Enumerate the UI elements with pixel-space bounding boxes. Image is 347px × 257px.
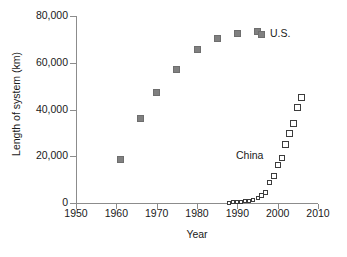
x-tick-label: 1950 bbox=[56, 207, 96, 219]
data-point-us bbox=[214, 35, 221, 42]
series-label-china: China bbox=[236, 149, 263, 161]
x-tick-label: 1970 bbox=[137, 207, 177, 219]
y-tick bbox=[70, 110, 76, 111]
chart-figure: 020,00040,00060,00080,000 19501960197019… bbox=[0, 0, 347, 257]
plot-area: 020,00040,00060,00080,000 19501960197019… bbox=[0, 0, 347, 257]
x-tick-label: 1990 bbox=[217, 207, 257, 219]
data-point-us bbox=[194, 46, 201, 53]
y-tick-label: 40,000 bbox=[36, 104, 68, 115]
x-tick-label: 2010 bbox=[298, 207, 338, 219]
data-point-us bbox=[137, 115, 144, 122]
data-point-china bbox=[282, 141, 289, 148]
data-point-china bbox=[279, 155, 285, 161]
x-axis-title: Year bbox=[137, 228, 257, 240]
data-point-us bbox=[117, 156, 124, 163]
data-point-us bbox=[153, 89, 160, 96]
data-point-china bbox=[294, 104, 301, 111]
y-axis-line bbox=[76, 16, 77, 204]
y-tick bbox=[70, 16, 76, 17]
data-point-china bbox=[290, 120, 297, 127]
data-point-china bbox=[271, 173, 277, 179]
y-tick-label: 60,000 bbox=[36, 57, 68, 68]
y-tick bbox=[70, 156, 76, 157]
data-point-china bbox=[286, 130, 293, 137]
x-tick-label: 1980 bbox=[177, 207, 217, 219]
data-point-china bbox=[267, 180, 272, 185]
series-label-us: U.S. bbox=[270, 27, 290, 39]
data-point-china bbox=[298, 94, 305, 101]
legend-swatch-us bbox=[258, 31, 265, 38]
data-point-us bbox=[173, 66, 180, 73]
y-axis-title: Length of system (km) bbox=[10, 34, 22, 174]
data-point-china bbox=[263, 190, 268, 195]
y-tick-label: 20,000 bbox=[36, 150, 68, 161]
x-tick-label: 1960 bbox=[96, 207, 136, 219]
y-tick-label: 80,000 bbox=[36, 10, 68, 21]
data-point-us bbox=[234, 30, 241, 37]
data-point-china bbox=[275, 162, 281, 168]
y-tick bbox=[70, 63, 76, 64]
x-tick-label: 2000 bbox=[258, 207, 298, 219]
